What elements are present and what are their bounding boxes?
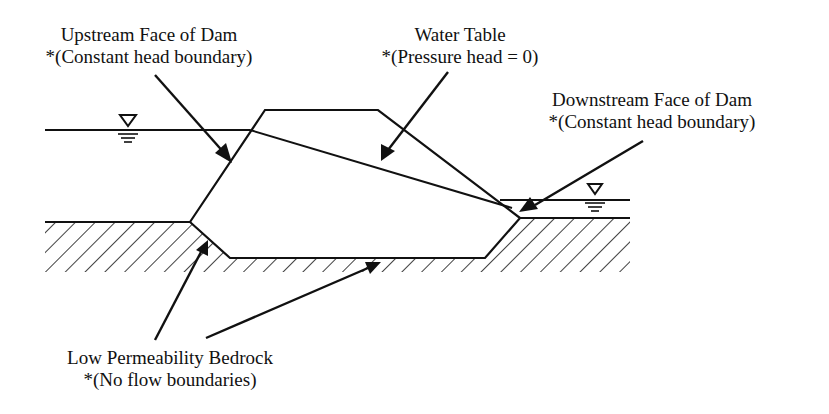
bedrock-hatching <box>45 215 635 275</box>
downstream-face-arrow <box>519 141 643 212</box>
downstream-face-label: Downstream Face of Dam *(Constant head b… <box>527 89 777 133</box>
bedrock-title: Low Permeability Bedrock <box>45 347 295 369</box>
water-table-label: Water Table *(Pressure head = 0) <box>365 24 555 68</box>
water-table-line <box>250 130 512 208</box>
water-table-note: *(Pressure head = 0) <box>365 46 555 68</box>
water-table-title: Water Table <box>365 24 555 46</box>
upstream-water-level-icon <box>118 115 138 142</box>
upstream-face-arrow <box>155 75 232 163</box>
bedrock-note: *(No flow boundaries) <box>45 369 295 391</box>
bedrock-label: Low Permeability Bedrock *(No flow bound… <box>45 347 295 391</box>
upstream-face-title: Upstream Face of Dam <box>24 24 274 46</box>
water-table-arrow <box>381 72 448 161</box>
downstream-face-note: *(Constant head boundary) <box>527 111 777 133</box>
downstream-water-level-icon <box>585 184 605 211</box>
upstream-face-label: Upstream Face of Dam *(Constant head bou… <box>24 24 274 68</box>
dam-outline <box>190 110 520 222</box>
downstream-face-title: Downstream Face of Dam <box>527 89 777 111</box>
upstream-face-note: *(Constant head boundary) <box>24 46 274 68</box>
bedrock-arrow-right <box>206 262 381 338</box>
